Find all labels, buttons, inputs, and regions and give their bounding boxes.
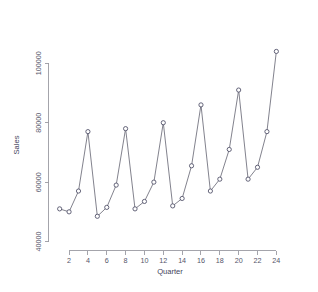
chart-background	[0, 0, 318, 292]
data-point-marker	[227, 147, 231, 151]
y-axis-tick-label: 100000	[34, 51, 43, 75]
data-point-marker	[142, 199, 146, 203]
data-point-marker	[246, 177, 250, 181]
data-point-marker	[199, 103, 203, 107]
x-axis-tick-label: 18	[216, 256, 224, 265]
x-axis-tick-label: 8	[124, 256, 128, 265]
data-point-marker	[180, 196, 184, 200]
y-axis-tick-label: 60000	[34, 172, 43, 192]
data-point-marker	[67, 210, 71, 214]
data-point-marker	[133, 207, 137, 211]
data-point-marker	[208, 189, 212, 193]
data-point-marker	[105, 205, 109, 209]
x-axis-tick-label: 24	[272, 256, 280, 265]
x-axis-tick-label: 10	[140, 256, 148, 265]
x-axis-tick-label: 16	[197, 256, 205, 265]
data-point-marker	[58, 207, 62, 211]
data-point-marker	[86, 130, 90, 134]
data-point-marker	[95, 214, 99, 218]
y-axis-title: Sales	[12, 135, 21, 154]
x-axis-tick-label: 14	[178, 256, 186, 265]
data-point-marker	[218, 177, 222, 181]
data-point-marker	[265, 130, 269, 134]
x-axis-tick-label: 22	[254, 256, 262, 265]
data-point-marker	[274, 49, 278, 53]
y-axis-tick-label: 40000	[34, 232, 43, 252]
chart-container: 400006000080000100000 246810121416182022…	[0, 0, 318, 292]
data-point-marker	[171, 204, 175, 208]
x-axis-tick-label: 4	[86, 256, 90, 265]
data-point-marker	[152, 180, 156, 184]
x-axis-tick-label: 20	[235, 256, 243, 265]
x-axis-title: Quarter	[157, 267, 183, 276]
data-point-marker	[124, 127, 128, 131]
sales-by-quarter-line-chart: 400006000080000100000 246810121416182022…	[0, 0, 318, 292]
x-axis-tick-label: 6	[105, 256, 109, 265]
x-axis-tick-label: 2	[67, 256, 71, 265]
data-point-marker	[189, 164, 193, 168]
y-axis-tick-label: 80000	[34, 113, 43, 133]
data-point-marker	[255, 165, 259, 169]
data-point-marker	[237, 88, 241, 92]
data-point-marker	[114, 183, 118, 187]
data-point-marker	[76, 189, 80, 193]
data-point-marker	[161, 121, 165, 125]
x-axis-tick-label: 12	[159, 256, 167, 265]
